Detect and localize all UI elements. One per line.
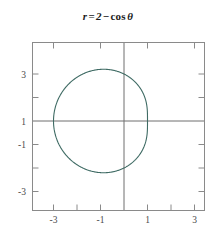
y-tick-label-neg3: -3	[18, 187, 26, 197]
x-tick-label-pos1: 1	[145, 215, 150, 225]
x-tick-label-pos3: 3	[192, 215, 197, 225]
polar-plot-figure: r=2−cos θ	[0, 0, 216, 241]
right-frame-ticks	[199, 74, 205, 192]
y-tick-label-neg1: -1	[18, 140, 26, 150]
y-tick-label-pos1: 1	[21, 117, 26, 127]
chart-canvas: -3 -1 1 3 3 1 -1 -3	[0, 0, 216, 241]
y-tick-label-pos3: 3	[21, 70, 26, 80]
x-tick-label-neg3: -3	[50, 215, 58, 225]
plot-frame	[33, 43, 205, 211]
y-axis-ticks	[33, 74, 39, 192]
x-tick-label-neg1: -1	[97, 215, 105, 225]
